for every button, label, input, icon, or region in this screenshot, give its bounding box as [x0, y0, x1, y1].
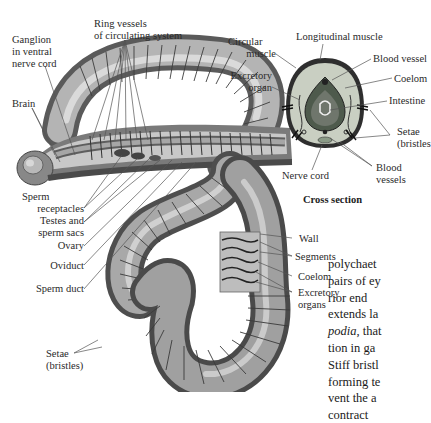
label-circular-muscle: Circular muscle [228, 36, 276, 60]
label-ovary: Ovary [22, 240, 84, 252]
label-setae: Setae (bristles) [46, 348, 83, 372]
body-text-italic-term: podia [328, 324, 356, 338]
label-intestine: Intestine [389, 95, 425, 107]
label-excretory-organ-line1: Excretory [226, 70, 272, 82]
label-coelom-worm: Coelom [298, 271, 331, 283]
label-oviduct: Oviduct [22, 260, 84, 272]
label-blood-vessels-line1: Blood [376, 162, 406, 174]
body-text-line: Stiff bristl [328, 357, 381, 374]
label-sperm-receptacles-line2: receptacles [22, 203, 84, 215]
label-setae-section: Setae (bristles [397, 126, 431, 150]
label-circular-muscle-line1: Circular [228, 36, 276, 48]
label-coelom-section: Coelom [394, 73, 427, 85]
body-text-line: extends la [328, 306, 381, 323]
label-longitudinal-muscle: Longitudinal muscle [296, 31, 383, 43]
label-ganglion-line2: in ventral [12, 46, 57, 58]
label-blood-vessels: Blood vessels [376, 162, 406, 186]
label-setae-section-line2: (bristles [397, 138, 431, 150]
label-blood-vessel: Blood vessel [373, 53, 427, 65]
label-ganglion-line3: nerve cord [12, 58, 57, 70]
label-ring-vessels-line2: of circulating system [94, 30, 182, 42]
body-text-line: pairs of ey [328, 273, 381, 290]
label-sperm-receptacles-line1: Sperm [22, 191, 84, 203]
label-wall: Wall [299, 233, 319, 245]
body-text-line-rest: , that [356, 324, 381, 338]
body-text: polychaet pairs of ey rior end extends l… [328, 256, 381, 423]
label-setae-section-line1: Setae [397, 126, 431, 138]
label-setae-line2: (bristles) [46, 360, 83, 372]
label-excretory-organ: Excretory organ [226, 70, 272, 94]
body-text-line: podia, that [328, 323, 381, 340]
body-text-line: vent the a [328, 390, 381, 407]
body-text-line: rior end [328, 290, 381, 307]
body-text-line: tion in ga [328, 340, 381, 357]
label-ring-vessels: Ring vessels of circulating system [94, 18, 182, 42]
label-sperm-duct: Sperm duct [12, 283, 84, 295]
label-ganglion-line1: Ganglion [12, 34, 57, 46]
label-brain: Brain [12, 98, 35, 110]
body-text-line: contract [328, 407, 381, 423]
label-ganglion: Ganglion in ventral nerve cord [12, 34, 57, 70]
cross-section-caption: Cross section [303, 194, 362, 205]
label-setae-line1: Setae [46, 348, 83, 360]
label-testes-line1: Testes and [22, 215, 84, 227]
label-excretory-organ-line2: organ [226, 82, 272, 94]
label-testes: Testes and sperm sacs [22, 215, 84, 239]
label-sperm-receptacles: Sperm receptacles [22, 191, 84, 215]
body-text-line: forming te [328, 374, 381, 391]
body-text-line: polychaet [328, 256, 381, 273]
label-ring-vessels-line1: Ring vessels [94, 18, 182, 30]
label-testes-line2: sperm sacs [22, 227, 84, 239]
label-blood-vessels-line2: vessels [376, 174, 406, 186]
label-circular-muscle-line2: muscle [228, 48, 276, 60]
label-nerve-cord: Nerve cord [282, 170, 329, 182]
